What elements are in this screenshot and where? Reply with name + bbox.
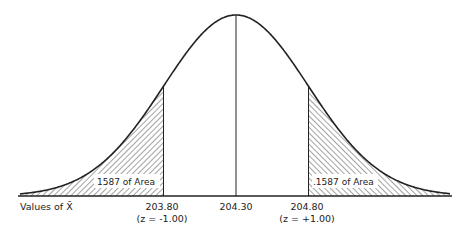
tick-label-mean: 204.30 — [219, 201, 252, 212]
normal-curve-diagram: 1587 of Area .1587 of Area Values of X̄ … — [0, 0, 470, 235]
axis-title: Values of X̄ — [20, 201, 73, 212]
left-area-label: 1587 of Area — [97, 177, 155, 187]
z-label-left: (z = -1.00) — [137, 213, 188, 224]
tick-label-right: 204.80 — [290, 201, 323, 212]
tick-label-left: 203.80 — [145, 201, 178, 212]
right-area-label: .1587 of Area — [313, 177, 374, 187]
z-label-right: (z = +1.00) — [279, 213, 335, 224]
normal-curve — [20, 15, 450, 194]
